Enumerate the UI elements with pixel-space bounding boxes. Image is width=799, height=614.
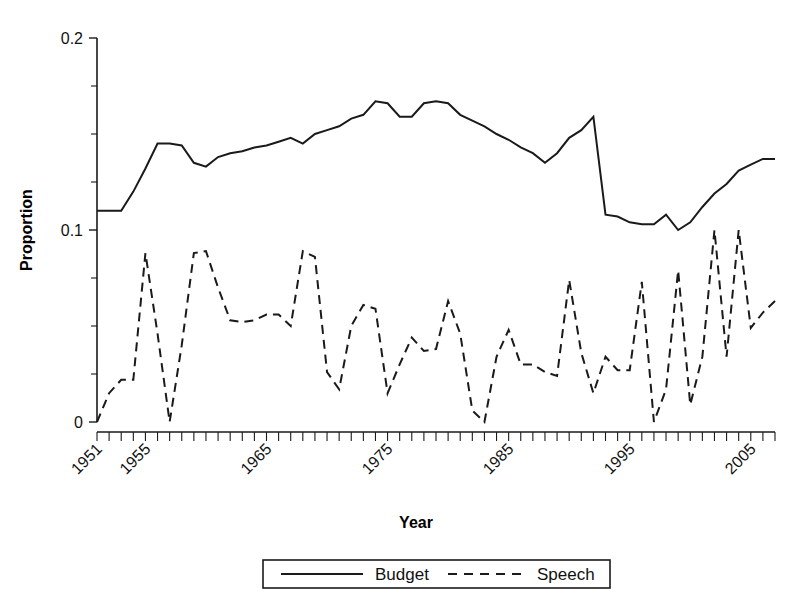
y-axis-tick-label: 0.1: [61, 222, 83, 239]
x-axis-tick-label: 1965: [237, 440, 274, 477]
x-axis-tick-label: 1955: [116, 440, 153, 477]
x-axis-tick-label: 1985: [480, 440, 517, 477]
x-axis-tick-label: 1975: [359, 440, 396, 477]
series-line-speech: [97, 230, 775, 422]
axis-titles-group: ProportionYear: [18, 189, 433, 531]
series-line-budget: [97, 101, 775, 230]
chart-page: 00.10.2 1951195519651975198519952005 Pro…: [0, 0, 799, 614]
x-axis-tick-label: 1951: [68, 440, 105, 477]
y-axis-tick-label: 0.2: [61, 30, 83, 47]
chart-container: 00.10.2 1951195519651975198519952005 Pro…: [0, 0, 799, 614]
legend-label-budget: Budget: [375, 565, 429, 584]
y-axis-tick-label: 0: [74, 414, 83, 431]
y-axis-title: Proportion: [18, 189, 35, 271]
x-axis: 1951195519651975198519952005: [68, 432, 775, 477]
data-series-group: [97, 101, 775, 422]
legend-label-speech: Speech: [537, 565, 595, 584]
y-axis: 00.10.2: [61, 30, 97, 431]
x-axis-title: Year: [399, 514, 433, 531]
x-axis-tick-label: 2005: [722, 440, 759, 477]
x-axis-tick-label: 1995: [601, 440, 638, 477]
chart-legend: BudgetSpeech: [263, 560, 610, 588]
line-chart-svg: 00.10.2 1951195519651975198519952005 Pro…: [0, 0, 799, 614]
